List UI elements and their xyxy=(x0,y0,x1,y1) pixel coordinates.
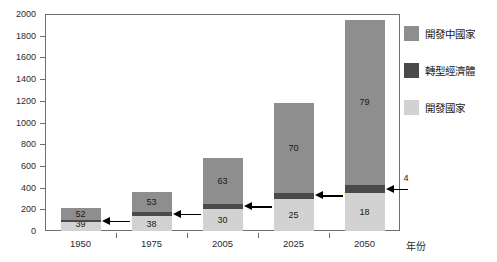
bar-segment-transition xyxy=(345,185,385,193)
bar-label-developed: 30 xyxy=(203,215,243,225)
stacked-bar-chart: 2000180016001400120010008006004002000 39… xyxy=(0,0,497,262)
bar-label-developing: 70 xyxy=(274,143,314,153)
annotation-arrow: 9 xyxy=(102,216,132,227)
arrow-head-icon xyxy=(315,191,323,199)
bar-label-developed: 18 xyxy=(345,207,385,217)
y-tick-label: 1600 xyxy=(16,53,36,62)
bar-group: 1879 xyxy=(345,20,385,231)
annotation-arrow: 4 xyxy=(386,184,410,195)
arrow-head-icon xyxy=(102,217,110,225)
arrow-line xyxy=(394,189,408,191)
bars-layer: 39529385310306372570518794 xyxy=(45,14,400,231)
legend-label: 開發國家 xyxy=(425,101,465,115)
x-axis: 19501975200520252050 xyxy=(45,233,400,253)
annotation-arrow: 10 xyxy=(173,209,203,220)
legend-swatch xyxy=(404,26,419,41)
y-tick-label: 0 xyxy=(31,227,36,236)
annotation-arrow: 5 xyxy=(315,190,345,201)
x-tick-mark xyxy=(329,233,330,238)
bar-label-developing: 53 xyxy=(132,197,172,207)
bar-segment-transition xyxy=(274,193,314,199)
bar-group: 3952 xyxy=(61,208,101,231)
y-tick-label: 800 xyxy=(21,140,36,149)
legend-label: 開發中國家 xyxy=(425,27,475,41)
y-tick-label: 1400 xyxy=(16,75,36,84)
y-tick-label: 600 xyxy=(21,162,36,171)
bar-label-developed: 25 xyxy=(274,210,314,220)
arrow-head-icon xyxy=(386,185,394,193)
bar-label-developing: 79 xyxy=(345,97,385,107)
arrow-line xyxy=(181,214,201,216)
y-tick-label: 400 xyxy=(21,184,36,193)
arrow-head-icon xyxy=(173,210,181,218)
bar-group: 3853 xyxy=(132,192,172,231)
legend-swatch xyxy=(404,100,419,115)
x-tick-mark xyxy=(116,233,117,238)
x-tick-label: 1950 xyxy=(70,238,91,249)
x-tick-label: 2050 xyxy=(354,238,375,249)
arrow-line xyxy=(252,206,272,208)
bar-segment-transition xyxy=(203,204,243,209)
x-axis-title: 年份 xyxy=(406,238,426,253)
annotation-arrow: 7 xyxy=(244,201,274,212)
annotation-label: 4 xyxy=(404,173,409,184)
y-tick-label: 200 xyxy=(21,205,36,214)
legend-label: 轉型經濟體 xyxy=(425,64,475,78)
x-tick-mark xyxy=(258,233,259,238)
y-tick-label: 1200 xyxy=(16,97,36,106)
y-tick-label: 2000 xyxy=(16,10,36,19)
bar-segment-transition xyxy=(132,212,172,216)
x-tick-label: 2025 xyxy=(283,238,304,249)
arrow-line xyxy=(110,221,130,223)
y-tick-label: 1800 xyxy=(16,32,36,41)
bar-segment-transition xyxy=(61,220,101,222)
arrow-head-icon xyxy=(244,202,252,210)
bar-group: 3063 xyxy=(203,158,243,231)
bar-label-developing: 52 xyxy=(61,209,101,219)
bar-label-developing: 63 xyxy=(203,176,243,186)
bar-label-developed: 38 xyxy=(132,219,172,229)
bar-group: 2570 xyxy=(274,103,314,231)
y-tick-label: 1000 xyxy=(16,119,36,128)
legend-swatch xyxy=(404,63,419,78)
arrow-line xyxy=(323,195,343,197)
y-axis: 2000180016001400120010008006004002000 xyxy=(0,14,42,231)
x-tick-label: 1975 xyxy=(141,238,162,249)
x-tick-mark xyxy=(187,233,188,238)
x-tick-label: 2005 xyxy=(212,238,233,249)
